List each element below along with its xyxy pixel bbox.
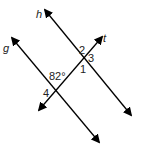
label-t: t: [103, 32, 107, 44]
angle-2-label: 2: [79, 44, 85, 56]
angle-4-label: 4: [43, 87, 49, 99]
label-h: h: [36, 8, 42, 20]
label-g: g: [3, 42, 10, 54]
angle-1-label: 1: [80, 63, 86, 75]
angle-3-label: 3: [88, 52, 94, 64]
angle-82-label: 82°: [49, 70, 66, 82]
diagram: h g t 2 3 1 82° 4: [0, 0, 143, 147]
